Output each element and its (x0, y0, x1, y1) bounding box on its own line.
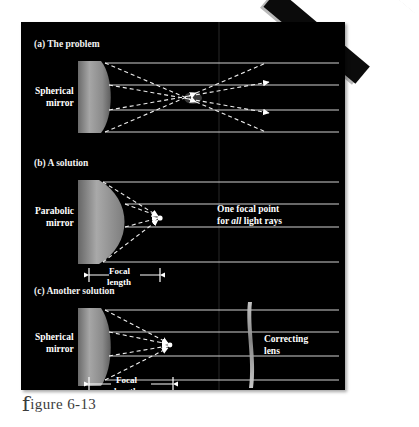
figure-plate: (a) The problem Spherical mirror (b) A s… (21, 22, 345, 390)
panel-b-note-line2: for all light rays (217, 216, 282, 226)
panel-a-mirror-label-line2: mirror (46, 98, 75, 108)
panel-c-mirror-label-line2: mirror (46, 344, 75, 354)
panel-b-mirror-label-line2: mirror (46, 218, 75, 228)
panel-c-spherical-mirror (78, 308, 111, 386)
panel-b-note-suffix: light rays (241, 216, 282, 226)
panel-c-lens-label-line1: Correcting (264, 334, 308, 344)
panel-c-focal-label-line2: length (114, 386, 138, 390)
panel-b-note-emphasis: all (231, 216, 241, 226)
panel-a-caustic-blur (184, 92, 202, 104)
panel-a-reflected-ray-2 (109, 85, 189, 99)
panel-c-reflected-ray-3 (109, 346, 168, 356)
panel-c-focal-point (168, 343, 173, 348)
panel-a-spherical-mirror (78, 61, 111, 133)
panel-a-reflected-ray-4 (105, 93, 196, 132)
panel-c-focal-label-line1: Focal (116, 375, 137, 385)
panel-b-focal-point (157, 215, 162, 220)
panel-a-mirror-label-line1: Spherical (35, 86, 74, 96)
panel-a-reflected-ray-1 (105, 63, 196, 102)
panel-c-heading: (c) Another solution (34, 286, 115, 297)
panel-b-note-prefix: for (217, 216, 231, 226)
panel-b-mirror-label-line1: Parabolic (35, 206, 74, 216)
panel-c-reflected-ray-2 (109, 332, 168, 344)
panel-b-heading: (b) A solution (34, 158, 89, 169)
panel-b-note-line1: One focal point (217, 204, 280, 214)
panel-a-reflected-ray-3 (109, 96, 189, 110)
panel-c-correcting-lens (247, 302, 254, 388)
panel-a-reflected-ray-2b (189, 99, 269, 113)
panel-b-reflected-ray-3 (125, 218, 158, 227)
panel-a-heading: (a) The problem (34, 39, 100, 50)
figure-caption: figure 6-13 (22, 396, 96, 413)
panel-b-focal-label-line1: Focal (109, 266, 130, 276)
panel-c-mirror-label-line1: Spherical (35, 332, 74, 342)
figure-caption-lead: f (22, 392, 30, 416)
panel-a-reflected-ray-3b (189, 82, 269, 96)
figure-caption-rest: igure 6-13 (30, 396, 96, 412)
optics-diagram: (a) The problem Spherical mirror (b) A s… (21, 22, 345, 390)
panel-c-lens-label-line2: lens (264, 346, 280, 356)
